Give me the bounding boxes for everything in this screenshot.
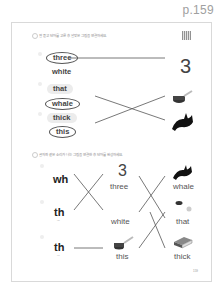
footer-page: 159 (193, 269, 198, 273)
section2-connector-lines (0, 0, 224, 288)
